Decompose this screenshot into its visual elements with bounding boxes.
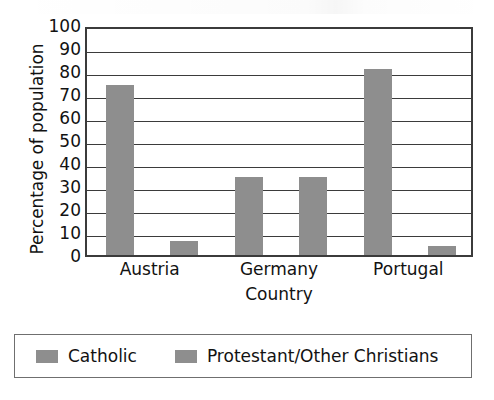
legend-entry: Protestant/Other Christians [175,347,439,365]
legend-swatch-icon [36,350,58,363]
bar [428,246,456,255]
y-tick-label: 40 [59,156,81,173]
y-tick-label: 30 [59,179,81,196]
bar [106,85,134,255]
x-tick-label: Austria [85,259,214,279]
plot-area [85,27,473,257]
bar [235,177,263,255]
x-axis-title: Country [85,284,473,304]
y-tick-label: 10 [59,225,81,242]
bar-group-container [87,29,471,255]
y-tick-label: 80 [59,64,81,81]
x-axis-tick-labels: AustriaGermanyPortugal [85,259,473,285]
y-tick-label: 60 [59,110,81,127]
y-tick-label: 90 [59,41,81,58]
legend-label: Protestant/Other Christians [207,347,439,365]
bar [299,177,327,255]
y-tick-label: 70 [59,87,81,104]
legend-entry: Catholic [36,347,137,365]
x-tick-label: Germany [214,259,343,279]
y-tick-label: 0 [70,248,81,265]
bar [364,69,392,255]
legend-swatch-icon [175,350,197,363]
y-tick-label: 100 [49,18,81,35]
chart-legend: CatholicProtestant/Other Christians [14,334,472,378]
legend-label: Catholic [68,347,137,365]
y-tick-label: 20 [59,202,81,219]
bar [170,241,198,255]
x-tick-label: Portugal [344,259,473,279]
bar-chart-figure: Percentage of population 100908070605040… [0,0,494,400]
y-tick-label: 50 [59,133,81,150]
